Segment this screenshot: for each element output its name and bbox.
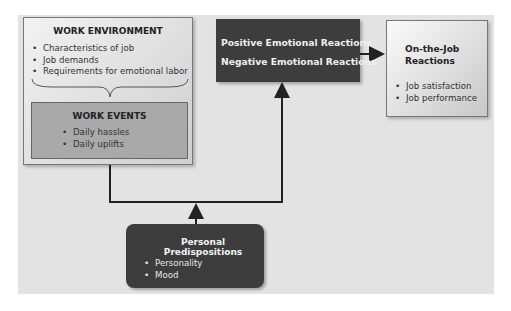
list-item: Requirements for emotional labor — [32, 66, 188, 78]
personal-predispositions-list: Personality Mood — [144, 258, 202, 281]
on-the-job-title-line2: Reactions — [405, 56, 455, 66]
list-item: Job demands — [32, 55, 188, 67]
work-events-title: WORK EVENTS — [32, 111, 187, 121]
curly-brace-icon — [31, 77, 189, 101]
work-environment-title: WORK ENVIRONMENT — [24, 26, 192, 36]
work-events-list: Daily hassles Daily uplifts — [62, 127, 129, 150]
work-environment-list: Characteristics of job Job demands Requi… — [32, 43, 188, 78]
list-item: Characteristics of job — [32, 43, 188, 55]
list-item: Mood — [144, 270, 202, 282]
list-item: Job performance — [395, 93, 477, 105]
list-item: Daily hassles — [62, 127, 129, 139]
on-the-job-list: Job satisfaction Job performance — [395, 81, 477, 104]
personal-predispositions-box: Personal Predispositions Personality Moo… — [126, 224, 264, 288]
emotional-reactions-box: Positive Emotional Reactions Negative Em… — [216, 19, 360, 82]
work-events-box: WORK EVENTS Daily hassles Daily uplifts — [31, 102, 188, 159]
on-the-job-reactions-box: On-the-Job Reactions Job satisfaction Jo… — [386, 20, 488, 117]
list-item: Daily uplifts — [62, 139, 129, 151]
on-the-job-title: On-the-Job Reactions — [405, 43, 459, 67]
list-item: Job satisfaction — [395, 81, 477, 93]
on-the-job-title-line1: On-the-Job — [405, 44, 459, 54]
list-item: Personality — [144, 258, 202, 270]
positive-reactions-label: Positive Emotional Reactions — [221, 37, 372, 48]
personal-predispositions-title: Personal Predispositions — [142, 237, 264, 257]
negative-reactions-label: Negative Emotional Reactions — [221, 56, 377, 67]
